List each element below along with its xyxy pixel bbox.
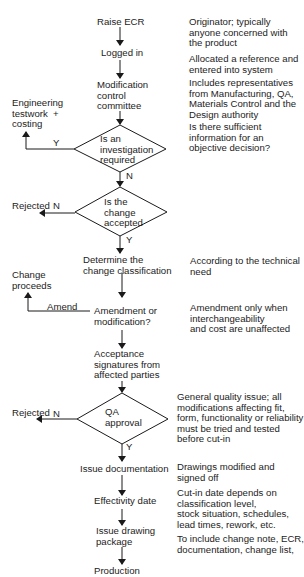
label-qa-yes: Y xyxy=(126,442,132,452)
decision-accepted-text: Is the change accepted xyxy=(104,197,143,229)
note-modification-committee: Includes representatives from Manufactur… xyxy=(189,78,296,120)
step-rejected-1: Rejected xyxy=(12,201,50,212)
label-investigation-yes: Y xyxy=(53,138,59,148)
step-modification-committee: Modification control committee xyxy=(97,80,148,112)
label-qa-no: N xyxy=(53,409,60,419)
step-determine-classification: Determine the change classification xyxy=(83,255,172,276)
step-logged-in: Logged in xyxy=(101,48,143,59)
note-logged-in: Allocated a reference and entered into s… xyxy=(189,54,298,75)
note-determine-classification: According to the technical need xyxy=(190,256,300,277)
step-engineering-testwork: Engineering testwork + costing xyxy=(12,98,63,130)
note-investigation: Is there sufficient information for an o… xyxy=(189,122,270,154)
step-acceptance-signatures: Acceptance signatures from affected part… xyxy=(94,349,160,381)
decision-qa-text: QA approval xyxy=(105,407,142,428)
note-amendment: Amendment only when interchangeability a… xyxy=(190,303,290,335)
note-effectivity-date: Cut-in date depends on classification le… xyxy=(177,488,289,530)
step-effectivity-date: Effectivity date xyxy=(94,496,156,507)
step-change-proceeds: Change proceeds xyxy=(12,270,51,291)
decision-investigation-text: Is an investigation required xyxy=(100,134,153,166)
note-issue-documentation: Drawings modified and signed off xyxy=(177,462,275,483)
label-accepted-no: N xyxy=(53,201,60,211)
label-investigation-no: N xyxy=(126,171,133,181)
step-production: Production xyxy=(94,566,140,577)
note-issue-drawing-package: To include change note, ECR, documentati… xyxy=(177,534,304,555)
step-issue-drawing-package: Issue drawing package xyxy=(96,526,155,547)
note-qa-approval: General quality issue; all modifications… xyxy=(177,392,303,445)
step-raise-ecr: Raise ECR xyxy=(97,17,144,28)
note-raise-ecr: Originator; typically anyone concerned w… xyxy=(189,17,288,49)
label-amend: Amend xyxy=(47,302,77,312)
arrow-investigation-yes xyxy=(26,132,74,149)
step-rejected-2: Rejected xyxy=(12,408,50,419)
label-accepted-yes: Y xyxy=(126,235,132,245)
step-amendment-or-modification: Amendment or modification? xyxy=(94,306,157,327)
step-issue-documentation: Issue documentation xyxy=(80,464,169,475)
